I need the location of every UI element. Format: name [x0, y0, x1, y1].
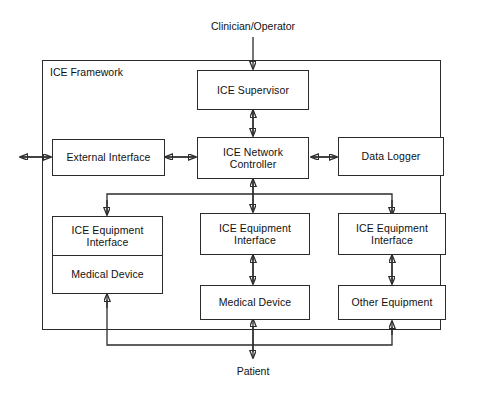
node-ice-equipment-interface-left-line2: Interface [87, 236, 129, 249]
node-ice-equipment-interface-middle-line2: Interface [234, 234, 276, 247]
node-ice-equipment-interface-right-line1: ICE Equipment [356, 222, 428, 235]
clinician-operator-label: Clinician/Operator [193, 20, 313, 32]
node-ice-network-controller[interactable]: ICE Network Controller [197, 137, 309, 179]
ice-framework-diagram: Clinician/Operator ICE Framework [0, 0, 477, 394]
node-ice-network-controller-line2: Controller [230, 158, 277, 171]
node-ice-network-controller-line1: ICE Network [223, 146, 283, 159]
node-ice-equipment-interface-middle[interactable]: ICE Equipment Interface [200, 213, 310, 255]
ice-framework-label: ICE Framework [50, 66, 123, 78]
node-data-logger[interactable]: Data Logger [338, 137, 444, 176]
node-external-interface[interactable]: External Interface [52, 139, 165, 176]
node-medical-device-middle[interactable]: Medical Device [200, 285, 310, 320]
node-other-equipment[interactable]: Other Equipment [338, 285, 446, 320]
node-ice-supervisor[interactable]: ICE Supervisor [197, 70, 309, 110]
node-ice-equipment-interface-right-line2: Interface [371, 234, 413, 247]
node-medical-device-left[interactable]: Medical Device [52, 256, 163, 294]
node-ice-equipment-interface-middle-line1: ICE Equipment [219, 222, 291, 235]
node-ice-equipment-interface-right[interactable]: ICE Equipment Interface [338, 213, 446, 255]
node-ice-equipment-interface-left[interactable]: ICE Equipment Interface [52, 216, 163, 256]
node-ice-equipment-interface-left-line1: ICE Equipment [72, 224, 144, 237]
patient-label: Patient [208, 365, 298, 377]
